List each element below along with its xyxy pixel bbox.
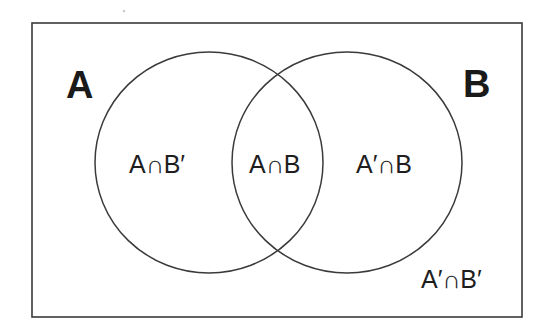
set-a-label: A xyxy=(66,64,93,106)
region-b-only-label: A′∩B xyxy=(356,150,412,178)
region-a-only-label: A∩B′ xyxy=(129,150,185,178)
set-b-label: B xyxy=(463,63,490,105)
venn-diagram: A B A∩B′ A∩B A′∩B A′∩B′ xyxy=(0,0,547,331)
region-a-and-b-label: A∩B xyxy=(249,150,300,178)
region-neither-label: A′∩B′ xyxy=(421,265,482,293)
stray-speck xyxy=(123,10,125,12)
